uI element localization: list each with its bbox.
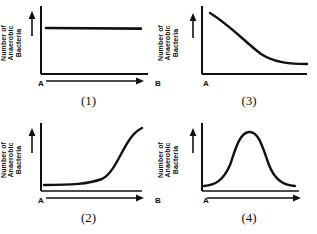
curve-exponential-decay [210,13,307,64]
y-axis-label-line-3: Bacteria [172,6,179,80]
y-axis-label-line-1: Number of [157,123,164,197]
plot-area-2: A B [22,123,150,203]
panel-caption-3: (3) [157,93,317,109]
y-axis-label-line-1: Number of [0,6,7,80]
panel-4: Number of Anaerobic Bacteria A B (4) [157,117,317,234]
x-axis-start-label-1: A [38,80,44,88]
plot-area-1: A B [22,6,150,86]
panel-2: Number of Anaerobic Bacteria A B (2) [0,117,157,234]
panel-caption-2: (2) [0,210,157,226]
x-axis-direction-arrow-head [293,195,301,202]
chart-svg-4 [183,123,311,203]
x-axis-start-label-2: A [38,197,44,205]
x-axis-start-label-4: A [203,197,209,205]
curve-bell [204,132,295,186]
panel-1: Number of Anaerobic Bacteria A B (1) [0,0,157,117]
plot-area-4: A B [183,123,311,203]
x-axis-start-label-3: A [203,80,209,88]
y-axis-direction-arrow-head [190,13,197,21]
y-axis-label-2: Number of Anaerobic Bacteria [0,123,22,197]
plot-area-3: A [183,6,311,86]
y-axis-label-1: Number of Anaerobic Bacteria [0,6,22,80]
y-axis-label-line-2: Anaerobic [7,123,14,197]
x-axis-direction-arrow-head [136,195,144,202]
panel-caption-4: (4) [157,210,317,226]
panel-caption-1: (1) [0,93,157,109]
chart-svg-1 [22,6,150,86]
chart-svg-3 [183,6,311,86]
panel-3: Number of Anaerobic Bacteria A (3) [157,0,317,117]
y-axis-direction-arrow-head [29,11,36,19]
y-axis-label-3: Number of Anaerobic Bacteria [157,6,179,80]
y-axis-label-line-2: Anaerobic [164,6,171,80]
curve-exponential-growth [44,128,142,185]
y-axis-direction-arrow-head [190,128,197,136]
y-axis-label-4: Number of Anaerobic Bacteria [157,123,179,197]
y-axis-label-line-2: Anaerobic [7,6,14,80]
x-axis-direction-arrow-head [136,78,144,85]
y-axis-label-line-1: Number of [0,123,7,197]
figure-grid: Number of Anaerobic Bacteria A B (1) Num… [0,0,317,234]
curve-constant [46,28,141,29]
y-axis-direction-arrow-head [29,128,36,136]
y-axis-label-line-1: Number of [157,6,164,80]
y-axis-label-line-2: Anaerobic [164,123,171,197]
chart-svg-2 [22,123,150,203]
y-axis-label-line-3: Bacteria [172,123,179,197]
